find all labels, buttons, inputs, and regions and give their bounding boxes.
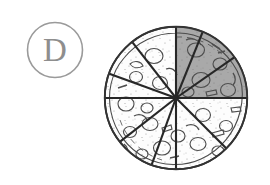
answer-option-panel: D (0, 0, 270, 185)
option-letter: D (26, 21, 84, 79)
pizza-fraction-diagram (100, 20, 256, 178)
